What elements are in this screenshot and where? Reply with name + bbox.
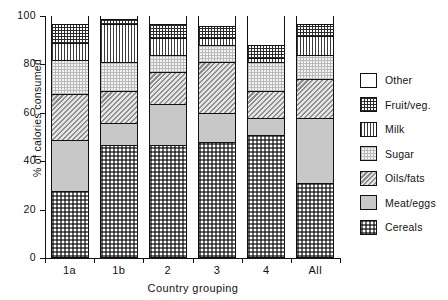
x-tick-label-1a: 1a [47,264,93,277]
bar-segment-4-cereals [248,136,284,257]
legend-label: Fruit/veg. [385,99,431,111]
y-axis-title: % of calories consumed [31,33,43,203]
bar-segment-3-oilsfats [199,63,235,114]
bar-segment-3-milk [199,39,235,46]
bar-1b [100,16,138,258]
bar-segment-2-cereals [150,146,186,257]
legend-swatch-icon [360,146,377,161]
x-tick-label-3: 3 [194,264,240,277]
x-tick-label-2: 2 [145,264,191,277]
legend-label: Oils/fats [385,172,425,184]
bar-segment-3-sugar [199,46,235,63]
bar-segment-All-other [297,15,333,25]
bar-segment-2-oilsfats [150,73,186,104]
bar-1a [51,16,89,258]
x-tick-label-4: 4 [243,264,289,277]
stacked-bar-chart: 020406080100 % of calories consumed 1a1b… [0,0,448,300]
bar-All [296,16,334,258]
y-tick-label: 20 [0,204,36,214]
legend-swatch-icon [360,220,377,235]
legend-item-sugar: Sugar [360,142,446,167]
bar-3 [198,16,236,258]
bar-segment-4-oilsfats [248,92,284,119]
legend-item-oilsfats: Oils/fats [360,166,446,191]
y-tick-label: 0 [0,252,36,262]
bar-segment-1b-fruitveg [101,20,137,25]
bar-segment-1b-other [101,15,137,20]
bar-4 [247,16,285,258]
bar-segment-4-other [248,15,284,46]
y-tick-label: 100 [0,10,36,20]
bar-segment-4-milk [248,59,284,64]
legend-item-meateggs: Meat/eggs [360,191,446,216]
bar-segment-1a-milk [52,44,88,61]
x-tick [45,258,46,263]
legend-item-milk: Milk [360,117,446,142]
x-tick [291,258,292,263]
legend-swatch-icon [360,171,377,186]
x-tick [242,258,243,263]
bar-segment-4-fruitveg [248,46,284,58]
legend-swatch-icon [360,195,377,210]
x-tick [340,258,341,263]
bar-segment-3-fruitveg [199,27,235,39]
bar-segment-2-other [150,15,186,25]
legend-item-cereals: Cereals [360,215,446,240]
bar-segment-1b-milk [101,25,137,64]
legend-item-fruitveg: Fruit/veg. [360,93,446,118]
bar-segment-1a-cereals [52,192,88,257]
legend-swatch-icon [360,73,377,88]
bar-segment-1b-meateggs [101,124,137,146]
bar-segment-All-milk [297,37,333,56]
bar-segment-2-sugar [150,56,186,73]
x-tick-label-All: All [292,264,338,277]
bar-segment-1a-sugar [52,61,88,95]
bar-segment-2-meateggs [150,105,186,146]
bar-segment-1b-oilsfats [101,92,137,123]
bar-segment-2-milk [150,39,186,56]
bar-segment-All-cereals [297,184,333,257]
chart-legend: OtherFruit/veg.MilkSugarOils/fatsMeat/eg… [360,68,446,240]
bar-segment-All-fruitveg [297,25,333,37]
bar-segment-All-oilsfats [297,80,333,119]
bar-segment-1a-meateggs [52,141,88,192]
legend-label: Milk [385,123,404,135]
bar-segment-All-sugar [297,56,333,80]
bar-segment-1b-cereals [101,146,137,257]
x-tick [143,258,144,263]
bar-segment-1a-oilsfats [52,95,88,141]
x-axis-title: Country grouping [45,282,341,294]
plot-area [45,16,340,258]
bar-segment-3-other [199,15,235,27]
bar-segment-3-cereals [199,143,235,257]
x-tick [94,258,95,263]
bar-2 [149,16,187,258]
bar-segment-2-fruitveg [150,25,186,40]
bar-segment-1a-fruitveg [52,25,88,44]
bar-segment-3-meateggs [199,114,235,143]
legend-swatch-icon [360,97,377,112]
x-tick [193,258,194,263]
legend-label: Meat/eggs [385,197,436,209]
legend-swatch-icon [360,122,377,137]
x-tick-label-1b: 1b [96,264,142,277]
bar-segment-4-meateggs [248,119,284,136]
bar-segment-All-meateggs [297,119,333,184]
bar-segment-4-sugar [248,63,284,92]
bar-segment-1a-other [52,15,88,25]
legend-label: Cereals [385,221,423,233]
legend-label: Sugar [385,148,414,160]
legend-label: Other [385,74,412,86]
bar-segment-1b-sugar [101,63,137,92]
legend-item-other: Other [360,68,446,93]
